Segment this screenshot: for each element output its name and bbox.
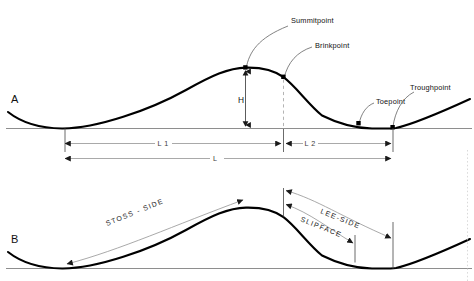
toepoint-marker <box>356 121 360 125</box>
l2-label: L 2 <box>305 139 316 148</box>
zone-slipface: SLIPFACE <box>286 205 353 244</box>
height-arrow-top <box>243 70 249 76</box>
panel-a: A Summitpoint Brinkpoint Toepoint <box>6 16 472 164</box>
stoss-side-span-line <box>67 200 243 264</box>
brinkpoint-leader-line <box>284 47 312 78</box>
l-total-label: L <box>213 154 218 163</box>
l1-label: L 1 <box>158 139 169 148</box>
figure-canvas: A Summitpoint Brinkpoint Toepoint <box>0 0 474 281</box>
dune-morphology-diagram: A Summitpoint Brinkpoint Toepoint <box>0 0 474 281</box>
troughpoint-label: Troughpoint <box>410 83 451 92</box>
panel-b-dune-profile <box>8 208 470 269</box>
callout-brinkpoint: Brinkpoint <box>281 41 349 80</box>
stoss-side-label: STOSS - SIDE <box>105 197 165 227</box>
brinkpoint-label: Brinkpoint <box>315 41 349 50</box>
brinkpoint-marker <box>281 75 285 79</box>
panel-b-letter: B <box>11 233 19 245</box>
height-label: H <box>238 95 244 105</box>
summitpoint-leader-line <box>246 26 288 69</box>
panel-b: B STOSS - SIDE LEE-SIDE SLIPFACE <box>6 188 472 269</box>
dimension-height: H <box>238 70 248 127</box>
dimension-l-total: L <box>65 154 391 163</box>
summitpoint-label: Summitpoint <box>291 16 334 25</box>
toepoint-leader-line <box>359 103 374 124</box>
callout-troughpoint: Troughpoint <box>390 83 450 130</box>
height-arrow-bottom <box>243 121 249 127</box>
dimension-l1: L 1 <box>65 139 281 148</box>
summitpoint-marker <box>243 65 247 69</box>
dimension-l2: L 2 <box>286 139 391 148</box>
panel-a-letter: A <box>11 93 19 105</box>
zone-stoss-side: STOSS - SIDE <box>67 197 243 264</box>
callout-toepoint: Toepoint <box>356 97 405 126</box>
